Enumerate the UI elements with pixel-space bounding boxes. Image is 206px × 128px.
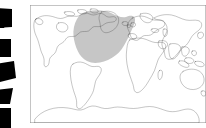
edge-chevron-icon-5: [0, 88, 13, 104]
world-map: [30, 5, 206, 123]
edge-chevron-icon-4: [0, 61, 16, 83]
edge-chevron-icon-3: [0, 39, 11, 57]
world-map-panel: [30, 5, 206, 123]
left-edge-chevron-strip: [0, 0, 22, 128]
figure-root: [0, 0, 206, 128]
edge-chevron-icon-6: [0, 108, 11, 128]
